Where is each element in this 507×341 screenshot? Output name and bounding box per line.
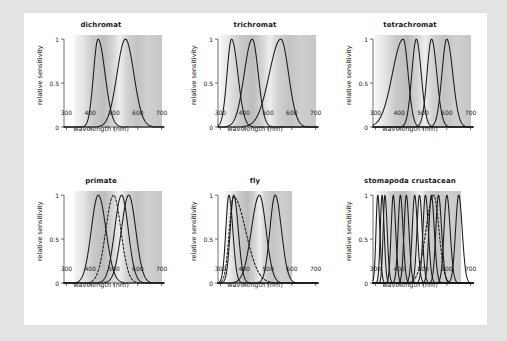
x-tick-label: 600	[286, 109, 297, 116]
y-tick-label: 0.5	[354, 80, 368, 87]
axis-label-x: wavelength (nm)	[24, 125, 178, 133]
chart-panel-1: trichromatrelative sensitivity3004005006…	[178, 13, 332, 169]
axis-label-y: relative sensitivity	[36, 45, 44, 105]
y-tick-label: 0.5	[45, 236, 59, 243]
x-tick-label: 400	[84, 109, 95, 116]
x-tick-label: 700	[156, 265, 167, 272]
chart-panel-3: primaterelative sensitivity3004005006007…	[24, 169, 178, 325]
x-tick-label: 300	[370, 109, 381, 116]
y-tick-label: 1	[45, 192, 59, 199]
x-tick-label: 300	[215, 265, 226, 272]
x-tick-label: 400	[84, 265, 95, 272]
x-tick-label: 600	[286, 265, 297, 272]
x-tick-label: 400	[393, 265, 404, 272]
x-tick-label: 400	[393, 109, 404, 116]
y-tick-label: 0.5	[354, 236, 368, 243]
y-tick-label: 1	[354, 192, 368, 199]
x-tick-label: 600	[132, 265, 143, 272]
x-tick-label: 300	[61, 265, 72, 272]
x-tick-label: 700	[465, 109, 476, 116]
x-tick-label: 600	[441, 265, 452, 272]
x-tick-label: 600	[441, 109, 452, 116]
x-tick-label: 700	[156, 109, 167, 116]
axis-label-x: wavelength (nm)	[333, 125, 487, 133]
axis-label-x: wavelength (nm)	[333, 281, 487, 289]
x-tick-label: 300	[215, 109, 226, 116]
x-tick-label: 300	[370, 265, 381, 272]
axis-lines	[215, 195, 318, 286]
x-tick-label: 500	[417, 265, 428, 272]
panel-title: primate	[24, 177, 178, 185]
axis-label-x: wavelength (nm)	[178, 125, 332, 133]
chart-panel-5: stomapoda crustaceanrelative sensitivity…	[333, 169, 487, 325]
axis-label-y: relative sensitivity	[36, 201, 44, 261]
panel-title: stomapoda crustacean	[333, 177, 487, 185]
axis-lines	[61, 195, 164, 286]
y-tick-label: 0.5	[45, 80, 59, 87]
y-tick-label: 0.5	[199, 236, 213, 243]
x-tick-label: 400	[238, 109, 249, 116]
chart-panel-0: dichromatrelative sensitivity30040050060…	[24, 13, 178, 169]
axis-label-y: relative sensitivity	[190, 45, 198, 105]
x-tick-label: 500	[417, 109, 428, 116]
axis-lines	[370, 39, 473, 130]
y-tick-label: 1	[354, 36, 368, 43]
axis-label-x: wavelength (nm)	[178, 281, 332, 289]
x-tick-label: 500	[108, 265, 119, 272]
x-tick-label: 500	[262, 265, 273, 272]
x-tick-label: 400	[238, 265, 249, 272]
axis-label-y: relative sensitivity	[345, 45, 353, 105]
panel-title: fly	[178, 177, 332, 185]
chart-panel-4: flyrelative sensitivity30040050060070000…	[178, 169, 332, 325]
panel-title: dichromat	[24, 21, 178, 29]
axis-label-y: relative sensitivity	[190, 201, 198, 261]
y-tick-label: 0.5	[199, 80, 213, 87]
panel-title: trichromat	[178, 21, 332, 29]
axis-label-x: wavelength (nm)	[24, 281, 178, 289]
x-tick-label: 500	[262, 109, 273, 116]
figure-page: dichromatrelative sensitivity30040050060…	[24, 13, 487, 325]
panel-grid: dichromatrelative sensitivity30040050060…	[24, 13, 487, 325]
axis-label-y: relative sensitivity	[345, 201, 353, 261]
y-tick-label: 1	[199, 36, 213, 43]
x-tick-label: 300	[61, 109, 72, 116]
y-tick-label: 1	[199, 192, 213, 199]
x-tick-label: 700	[310, 109, 321, 116]
x-tick-label: 600	[132, 109, 143, 116]
x-tick-label: 700	[465, 265, 476, 272]
y-tick-label: 1	[45, 36, 59, 43]
x-tick-label: 700	[310, 265, 321, 272]
x-tick-label: 500	[108, 109, 119, 116]
chart-panel-2: tetrachromatrelative sensitivity30040050…	[333, 13, 487, 169]
panel-title: tetrachromat	[333, 21, 487, 29]
